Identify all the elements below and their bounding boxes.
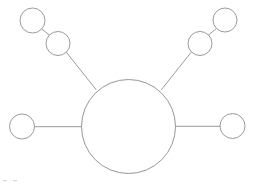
node-upper-right-inner[interactable]	[188, 32, 212, 56]
edge-upleft-chain	[41, 29, 50, 36]
node-left-outer[interactable]	[10, 114, 35, 139]
corner-marks-layer	[3, 180, 17, 181]
node-right-outer[interactable]	[220, 114, 245, 139]
corner-mark-1	[3, 180, 7, 181]
node-upper-left-outer[interactable]	[20, 8, 45, 33]
diagram-canvas	[0, 0, 255, 185]
node-upper-right-outer[interactable]	[213, 8, 237, 32]
edge-hub-upright	[162, 53, 192, 90]
nodes-layer	[10, 8, 246, 174]
edge-hub-upleft	[67, 53, 97, 90]
node-diagram	[0, 0, 255, 185]
node-hub[interactable]	[82, 80, 176, 174]
edge-upright-chain	[209, 29, 217, 36]
corner-mark-2	[13, 180, 17, 181]
node-upper-left-inner[interactable]	[46, 32, 70, 56]
